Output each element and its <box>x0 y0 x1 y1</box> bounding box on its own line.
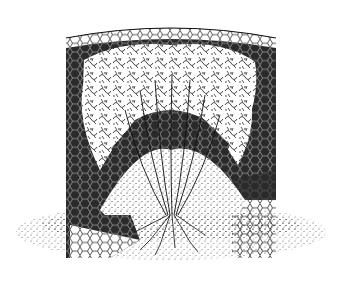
illustration <box>0 0 342 289</box>
